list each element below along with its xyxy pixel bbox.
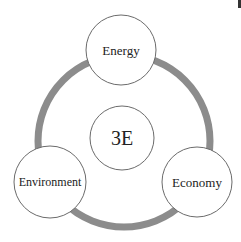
economy-node-label: Economy <box>172 175 222 190</box>
energy-node: Energy <box>86 15 156 85</box>
economy-node: Economy <box>162 147 232 217</box>
environment-node: Environment <box>14 146 86 218</box>
3e-cycle-diagram: 3E Energy Environment Economy <box>0 0 241 242</box>
environment-node-label: Environment <box>19 175 82 189</box>
center-node-label: 3E <box>111 127 133 149</box>
page-edge-mark <box>238 0 241 8</box>
center-node: 3E <box>90 106 154 170</box>
energy-node-label: Energy <box>102 43 140 58</box>
